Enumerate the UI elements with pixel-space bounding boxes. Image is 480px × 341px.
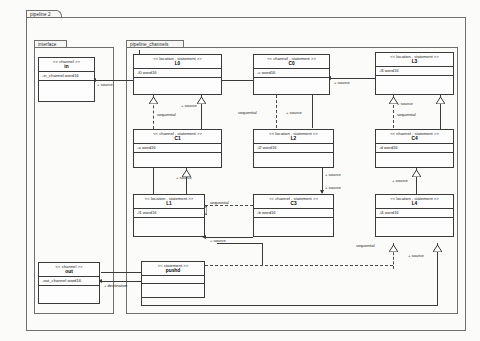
class-operations-C0 [254, 78, 329, 94]
class-box-C1[interactable]: << channel , statement >> C1 -a word16 [133, 129, 222, 168]
class-operations-C3 [254, 218, 333, 236]
edge-label-source-in: + source [97, 82, 113, 87]
class-attribute-C3: -b word16 [254, 209, 333, 218]
class-operations-in [39, 81, 94, 101]
edge-bottom-long [141, 305, 437, 306]
class-attribute-out: -out_channel word16 [39, 277, 99, 286]
edge-C0-to-L3 [330, 78, 375, 79]
class-box-L0[interactable]: << location , statement >> L0 -l0 word16 [133, 54, 222, 95]
class-name-L3: L3 [376, 59, 453, 64]
edge-label-destination-out: + destination [104, 283, 127, 288]
class-header-pushd: << statement >> pushd [142, 262, 204, 276]
class-header-out: << channel >> out [39, 263, 99, 277]
class-box-in[interactable]: << channel >> in -in_channel word16 [38, 57, 95, 102]
edge-sequential-L1-C3 [205, 205, 253, 206]
class-header-L3: << location , statement >> L3 [376, 53, 453, 67]
class-attribute-C0: -c word16 [254, 69, 329, 78]
class-box-C3[interactable]: << channel , statement >> C3 -b word16 [253, 194, 334, 237]
class-name-pushd: pushd [142, 268, 204, 273]
class-operations-L0 [134, 78, 221, 94]
class-header-C4: << channel , statement >> C4 [376, 130, 453, 144]
class-attribute-L2: -l2 word16 [254, 144, 333, 153]
edge-label-source-L3: + source [397, 101, 413, 106]
arrowhead-L4-right [433, 238, 442, 256]
class-name-out: out [39, 269, 99, 274]
class-name-L1: L1 [134, 201, 204, 206]
class-header-L0: << location , statement >> L0 [134, 55, 221, 69]
arrowhead-L4-bottom [389, 238, 398, 256]
class-operations-out [39, 286, 99, 303]
edge-L1-col-riser [153, 168, 154, 194]
class-operations-C4 [376, 153, 453, 167]
class-operations-L2 [254, 153, 333, 167]
class-box-pushd[interactable]: << statement >> pushd [141, 261, 205, 298]
edge-label-source-C1: + source [176, 175, 192, 180]
diagram-canvas: pipeline 2 interface pipeline_channels +… [0, 0, 480, 341]
class-name-in: in [39, 64, 94, 69]
class-attribute-L0: -l0 word16 [134, 69, 221, 78]
class-attribute-C4: -d word16 [376, 144, 453, 153]
class-box-L3[interactable]: << location , statement >> L3 -l3 word16 [375, 52, 454, 95]
edge-pushd-dashed [205, 265, 393, 266]
class-attribute-L1: -l1 word16 [134, 209, 204, 218]
class-attribute-L3: -l3 word16 [376, 67, 453, 76]
edge-label-sequential-L0-C1: sequential [157, 112, 176, 117]
edge-label-source-L2: + source [325, 172, 341, 177]
class-box-C0[interactable]: << channel , statement >> C0 -c word16 [253, 54, 330, 95]
edge-C3-bottom-h [217, 243, 263, 244]
class-header-L1: << location , statement >> L1 [134, 195, 204, 209]
class-box-C4[interactable]: << channel , statement >> C4 -d word16 [375, 129, 454, 168]
edge-bottom-riser-right [437, 291, 438, 306]
class-name-C1: C1 [134, 136, 221, 141]
class-box-L2[interactable]: << location , statement >> L2 -l2 word16 [253, 129, 334, 168]
class-box-out[interactable]: << channel >> out -out_channel word16 [38, 262, 100, 304]
package-tab-pipeline-2: pipeline 2 [26, 10, 62, 17]
class-name-C4: C4 [376, 136, 453, 141]
class-attribute-L4: -l4 word16 [376, 209, 453, 218]
class-header-L4: << location , statement >> L4 [376, 195, 453, 209]
package-tab-pipeline-channels: pipeline_channels [126, 40, 184, 47]
edge-label-source-L0-left: + source [334, 80, 350, 85]
edge-pushd-left-upper [101, 272, 141, 273]
class-name-C3: C3 [254, 201, 333, 206]
edge-label-sequential-L1-C3: sequential [210, 200, 229, 205]
class-header-C3: << channel , statement >> C3 [254, 195, 333, 209]
edge-label-source-C0: + source [286, 110, 302, 115]
edge-C3-bottom-riser [262, 243, 263, 265]
edge-label-source-C4: + source [392, 178, 408, 183]
class-operations-L1 [134, 218, 204, 236]
class-attribute-in: -in_channel word16 [39, 72, 94, 81]
class-operations-pushd [142, 284, 204, 297]
class-name-C0: C0 [254, 61, 329, 66]
edge-pushd-to-out [101, 281, 141, 282]
class-attribute-C1: -a word16 [134, 144, 221, 153]
class-header-L2: << location , statement >> L2 [254, 130, 333, 144]
class-box-L1[interactable]: << location , statement >> L1 -l1 word16 [133, 194, 205, 237]
edge-label-source-L0-right: + source [181, 103, 197, 108]
class-header-in: << channel >> in [39, 58, 94, 72]
class-operations-L4 [376, 218, 453, 236]
class-operations-C1 [134, 153, 221, 167]
class-name-L2: L2 [254, 136, 333, 141]
edge-label-sequential-C0-L2: sequential [238, 110, 257, 115]
class-header-C0: << channel , statement >> C0 [254, 55, 329, 69]
edge-label-sequential-L4: sequential [356, 243, 375, 248]
class-header-C1: << channel , statement >> C1 [134, 130, 221, 144]
class-name-L4: L4 [376, 201, 453, 206]
class-operations-L3 [376, 76, 453, 94]
class-attribute-pushd [142, 276, 204, 284]
class-name-L0: L0 [134, 61, 221, 66]
edge-label-sequential-L3-C4: sequential [397, 112, 416, 117]
class-box-L4[interactable]: << location , statement >> L4 -l4 word16 [375, 194, 454, 237]
edge-label-source-L4: + source [408, 253, 424, 258]
package-tab-interface: interface [34, 40, 67, 47]
edge-label-source-C3: + source [325, 185, 341, 190]
edge-into-C0 [222, 80, 253, 81]
